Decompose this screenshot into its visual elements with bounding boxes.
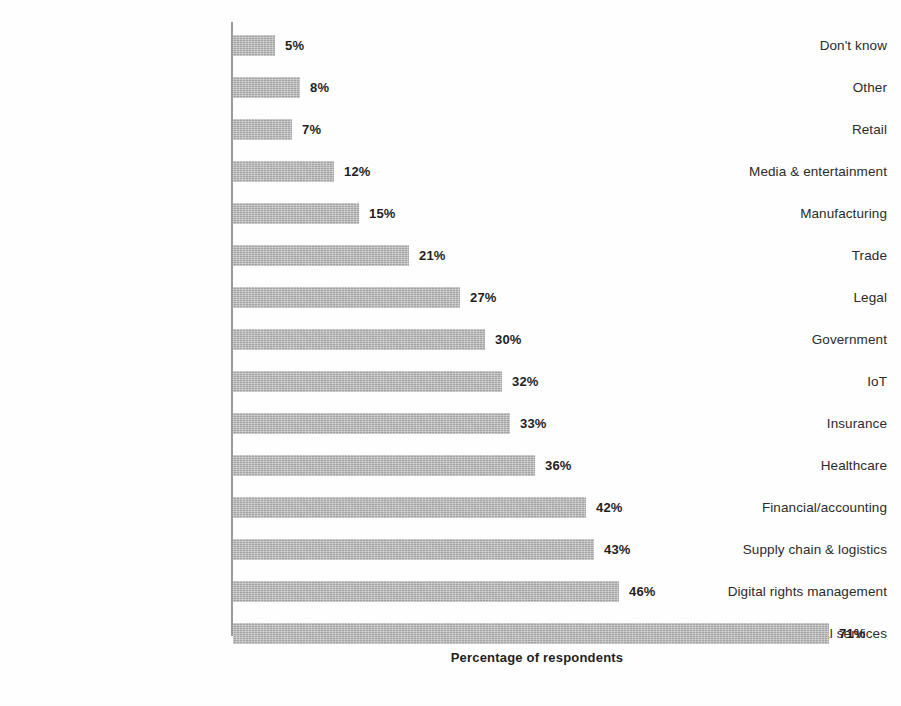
bar-value-label: 7% — [302, 119, 321, 140]
bar — [233, 581, 619, 602]
category-label: Digital rights management — [688, 571, 901, 613]
bar-value-label: 30% — [495, 329, 522, 350]
category-label: Trade — [688, 235, 901, 277]
category-label: Legal — [688, 277, 901, 319]
bar — [233, 497, 586, 518]
bar — [233, 287, 460, 308]
bar-value-label: 5% — [285, 35, 304, 56]
bar-row: Digital rights management46% — [0, 571, 901, 613]
category-label: Other — [688, 67, 901, 109]
bar-row: Government30% — [0, 319, 901, 361]
category-label: Financial/accounting — [688, 487, 901, 529]
bar — [233, 539, 594, 560]
bar-value-label: 27% — [470, 287, 497, 308]
bar-row: Insurance33% — [0, 403, 901, 445]
bar-row: Manufacturing15% — [0, 193, 901, 235]
bar-value-label: 32% — [512, 371, 539, 392]
bar-row: Financial/accounting42% — [0, 487, 901, 529]
bar — [233, 245, 409, 266]
x-axis-title: Percentage of respondents — [231, 650, 843, 665]
bar-value-label: 8% — [310, 77, 329, 98]
bar — [233, 77, 300, 98]
bar-row: Legal27% — [0, 277, 901, 319]
category-label: Supply chain & logistics — [688, 529, 901, 571]
category-label: Healthcare — [688, 445, 901, 487]
bar-value-label: 46% — [629, 581, 656, 602]
bar-row: Healthcare36% — [0, 445, 901, 487]
bar-row: Retail7% — [0, 109, 901, 151]
bar — [233, 119, 292, 140]
bar — [233, 455, 535, 476]
bar-row: Trade21% — [0, 235, 901, 277]
bar-row: Don't know5% — [0, 25, 901, 67]
bar-row: Media & entertainment12% — [0, 151, 901, 193]
bar-value-label: 12% — [344, 161, 371, 182]
bar-row: Banking & financial services71% — [0, 613, 901, 655]
category-label: Insurance — [688, 403, 901, 445]
bar-value-label: 33% — [520, 413, 547, 434]
bar-chart: Don't know5%Other8%Retail7%Media & enter… — [0, 0, 901, 706]
bar-row: Other8% — [0, 67, 901, 109]
bar — [233, 35, 275, 56]
bar-value-label: 21% — [419, 245, 446, 266]
bar — [233, 413, 510, 434]
bar — [233, 623, 829, 644]
category-label: Don't know — [688, 25, 901, 67]
bar — [233, 329, 485, 350]
bar-value-label: 71% — [839, 623, 866, 644]
bar — [233, 203, 359, 224]
bar-value-label: 43% — [604, 539, 631, 560]
category-label: Government — [688, 319, 901, 361]
bar-row: IoT32% — [0, 361, 901, 403]
category-label: Manufacturing — [688, 193, 901, 235]
bar — [233, 161, 334, 182]
category-label: Retail — [688, 109, 901, 151]
plot-area: Don't know5%Other8%Retail7%Media & enter… — [0, 0, 901, 706]
category-label: IoT — [688, 361, 901, 403]
bar-row: Supply chain & logistics43% — [0, 529, 901, 571]
bar-value-label: 15% — [369, 203, 396, 224]
bar-value-label: 42% — [596, 497, 623, 518]
bar-value-label: 36% — [545, 455, 572, 476]
bar — [233, 371, 502, 392]
category-label: Media & entertainment — [688, 151, 901, 193]
